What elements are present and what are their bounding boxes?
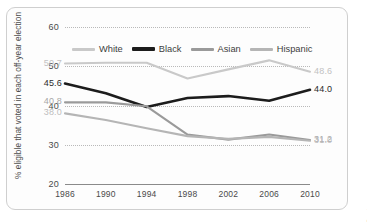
value-label-hispanic-left: 38.0 xyxy=(44,107,62,117)
chart-figure: % eligible that voted in each off-year e… xyxy=(0,0,367,222)
y-axis-title: % eligible that voted in each off-year e… xyxy=(14,29,23,179)
y-axis-tick-30: 30 xyxy=(49,140,59,150)
legend-label: Asian xyxy=(218,44,241,54)
legend-label: Hispanic xyxy=(277,44,313,54)
line-series-hispanic xyxy=(65,113,310,140)
legend-item-asian[interactable]: Asian xyxy=(191,44,241,54)
line-series-asian xyxy=(65,102,310,140)
x-axis-tick-2006: 2006 xyxy=(259,189,279,199)
value-label-hispanic-right: 31.0 xyxy=(314,135,332,145)
x-axis-tick-1998: 1998 xyxy=(178,189,198,199)
gridline-20 xyxy=(65,184,310,185)
legend-label: White xyxy=(99,44,123,54)
x-axis-tick-2010: 2010 xyxy=(300,189,320,199)
x-axis-tick-2002: 2002 xyxy=(218,189,238,199)
x-axis-tick-1986: 1986 xyxy=(55,189,75,199)
line-series-black xyxy=(65,84,310,108)
value-label-asian-left: 40.8 xyxy=(44,96,62,106)
value-label-white-left: 50.7 xyxy=(44,58,62,68)
legend-item-white[interactable]: White xyxy=(72,44,123,54)
legend-item-hispanic[interactable]: Hispanic xyxy=(250,44,313,54)
legend-item-black[interactable]: Black xyxy=(132,44,182,54)
value-label-black-left: 45.6 xyxy=(44,78,62,88)
legend-swatch-icon-white xyxy=(72,48,95,51)
legend-swatch-icon-asian xyxy=(191,48,214,51)
legend-swatch-icon-black xyxy=(132,47,155,51)
y-axis-tick-60: 60 xyxy=(49,22,59,32)
value-label-white-right: 48.6 xyxy=(314,66,332,76)
x-axis-tick-1990: 1990 xyxy=(96,189,116,199)
x-axis-tick-1994: 1994 xyxy=(137,189,157,199)
legend-label: Black xyxy=(159,44,182,54)
value-label-black-right: 44.0 xyxy=(314,84,332,94)
chart-legend: WhiteBlackAsianHispanic xyxy=(72,44,312,54)
y-axis-tick-20: 20 xyxy=(49,179,59,189)
legend-swatch-icon-hispanic xyxy=(250,48,273,51)
line-series-white xyxy=(65,60,310,78)
